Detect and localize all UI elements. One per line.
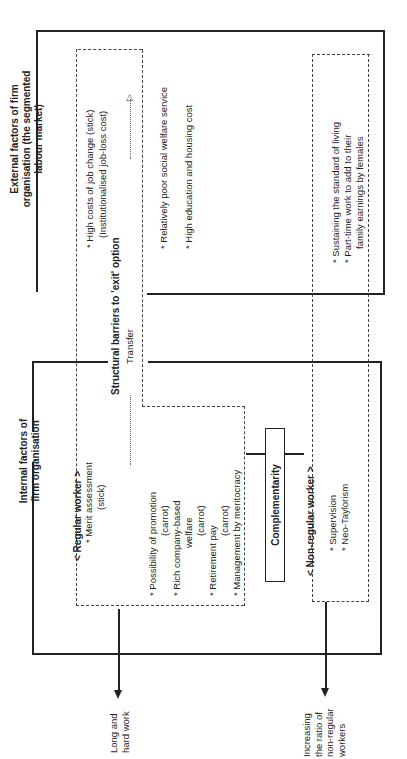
- female-box-top-dash: [312, 54, 370, 55]
- internal-title: Internal factors of firm organisation: [18, 381, 42, 541]
- regular-outcome-arrow-line: [118, 609, 120, 692]
- external-item: * Relatively poor social welfare service: [158, 87, 170, 249]
- internal-title-line: firm organisation: [30, 381, 42, 541]
- internal-title-line: Internal factors of: [18, 381, 30, 541]
- external-title: External factors of firm organisation (t…: [9, 39, 45, 239]
- complementarity-connector-left-line: [246, 454, 265, 456]
- external-box-top-edge: [36, 30, 385, 32]
- outcome-line: non-regular: [324, 708, 336, 757]
- carrot-item: * Management by meritocracy: [231, 470, 243, 596]
- external-box-bottom-edge: [147, 293, 384, 295]
- exit-box-inner-dash: [142, 50, 143, 407]
- carrot-item: * Rich company-based: [171, 500, 183, 596]
- carrot-box-top-dash: [142, 406, 245, 407]
- regular-box-bottom-dash: [76, 605, 244, 606]
- complementarity-connector-right-line: [284, 454, 304, 456]
- outcome-line: Increasing: [301, 708, 313, 757]
- external-item: (Institutionalised job-loss cost): [97, 111, 109, 238]
- regular-outcome-arrowhead-icon: [114, 690, 122, 699]
- carrot-item: (carrot): [219, 505, 231, 536]
- external-title-line: labour market): [33, 39, 45, 239]
- outcome-line: workers: [336, 708, 348, 757]
- carrot-item: * Possibility of promotion: [147, 492, 159, 596]
- diagram-canvas: External factors of firm organisation (t…: [0, 0, 407, 759]
- internal-box-top-edge: [32, 361, 108, 363]
- regular-item: (stick): [95, 485, 107, 510]
- nonregular-outcome-text: Increasing the ratio of non-regular work…: [301, 708, 347, 757]
- outcome-line: Long and: [108, 711, 120, 753]
- transfer-arrowhead-icon: ▷: [125, 94, 134, 101]
- nonregular-outcome-arrowhead-icon: [321, 688, 329, 697]
- nonregular-worker-heading: < Non-regular worker >: [305, 467, 317, 576]
- internal-box-bottom-edge: [32, 653, 382, 655]
- external-title-line: organisation (the segmented: [21, 39, 33, 239]
- carrot-item: (carrot): [195, 505, 207, 536]
- nonregular-item: * Supervision: [327, 495, 339, 551]
- internal-box-top-edge-right: [148, 361, 382, 363]
- nonregular-item: * Neo-Taylorism: [339, 484, 351, 551]
- female-item: * Part-time work to add to their: [342, 135, 354, 263]
- external-item: * High costs of job change (stick): [84, 110, 96, 248]
- internal-box-right-edge: [380, 362, 382, 655]
- female-item: * Sustaining the standard of living: [330, 122, 342, 263]
- carrot-item: welfare: [183, 517, 195, 548]
- carrot-box-right-dash: [244, 406, 245, 606]
- outcome-line: the ratio of: [313, 708, 325, 757]
- external-title-line: External factors of firm: [9, 39, 21, 239]
- female-item: family earnings by females: [354, 137, 366, 249]
- outcome-line: hard work: [120, 711, 132, 753]
- external-item: * High education and housing cost: [183, 105, 195, 249]
- barrier-title: Structural barriers to 'exit' option: [110, 237, 122, 395]
- regular-box-top-dash: [78, 49, 142, 50]
- carrot-item: * Retirement pay: [207, 525, 219, 596]
- regular-item: * Merit assessment: [83, 462, 95, 543]
- female-box-right-dash: [368, 54, 369, 602]
- transfer-label: Transfer: [124, 329, 136, 364]
- complementarity-box: Complementarity: [265, 428, 285, 582]
- nonregular-outcome-arrow-line: [325, 602, 327, 690]
- female-box-bottom-dash: [312, 601, 369, 602]
- external-box-right-edge: [383, 31, 385, 295]
- transfer-arrow-line-lower: [130, 395, 131, 465]
- transfer-arrow-line: [130, 99, 131, 159]
- regular-outcome-text: Long and hard work: [108, 711, 131, 753]
- carrot-item: (carrot): [159, 505, 171, 536]
